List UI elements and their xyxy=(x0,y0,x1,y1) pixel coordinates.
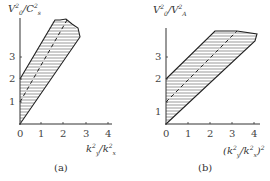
x-tick-3-b: 3 xyxy=(229,128,235,139)
x-tick-0-a: 0 xyxy=(17,128,23,139)
y-tick-3-b: 3 xyxy=(155,51,161,62)
x-tick-0-b: 0 xyxy=(163,128,169,139)
x-tick-2-b: 2 xyxy=(207,128,213,139)
region-boundary-a xyxy=(20,19,80,124)
x-tick-1-a: 1 xyxy=(38,128,44,139)
y-axis-label-b: V20/V2A xyxy=(153,3,187,17)
caption-a: (a) xyxy=(54,162,68,173)
y-axis-label-a: V20/C2s xyxy=(8,2,41,16)
x-axis-label-a: k2y/k2x xyxy=(86,142,116,156)
y-tick-3-a: 3 xyxy=(9,51,15,62)
y-tick-1-a: 1 xyxy=(9,96,15,107)
y-tick-1-b: 1 xyxy=(155,106,161,117)
ticks-b xyxy=(166,57,254,124)
y-tick-2-a: 2 xyxy=(9,73,15,84)
panel-b: V20/V2A 3 2 1 0 1 2 3 4 (k2y/k2x)2 (b) xyxy=(135,0,270,181)
x-tick-4-b: 4 xyxy=(251,128,257,139)
y-tick-2-b: 2 xyxy=(155,73,161,84)
x-tick-1-b: 1 xyxy=(185,128,191,139)
x-tick-2-a: 2 xyxy=(60,128,66,139)
x-tick-3-a: 3 xyxy=(83,128,89,139)
panel-a: V20/C2s 3 2 1 0 1 2 3 4 k2y/k2x (a) xyxy=(0,0,135,181)
x-tick-4-a: 4 xyxy=(105,128,111,139)
caption-b: (b) xyxy=(198,162,212,173)
x-axis-label-b: (k2y/k2x)2 xyxy=(223,144,265,158)
